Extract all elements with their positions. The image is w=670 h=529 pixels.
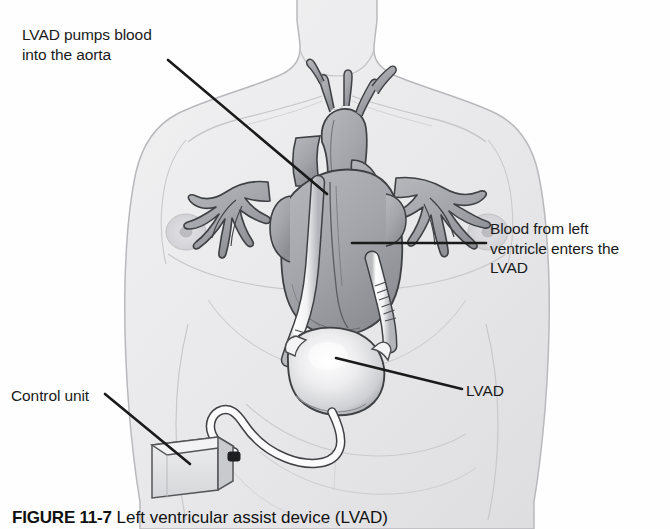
label-lvad-pumps-blood-into-aorta: LVAD pumps blood into the aorta <box>22 25 202 64</box>
label-blood-from-left-ventricle: Blood from left ventricle enters the LVA… <box>490 219 666 278</box>
driveline-connector <box>228 452 240 461</box>
label-control-unit: Control unit <box>11 386 121 406</box>
figure-container: LVAD pumps blood into the aorta Blood fr… <box>0 0 670 529</box>
figure-caption: FIGURE 11-7 Left ventricular assist devi… <box>12 507 662 529</box>
label-lvad: LVAD <box>466 381 556 401</box>
figure-caption-number: FIGURE 11-7 <box>12 508 112 527</box>
figure-caption-text: Left ventricular assist device (LVAD) <box>112 508 388 527</box>
